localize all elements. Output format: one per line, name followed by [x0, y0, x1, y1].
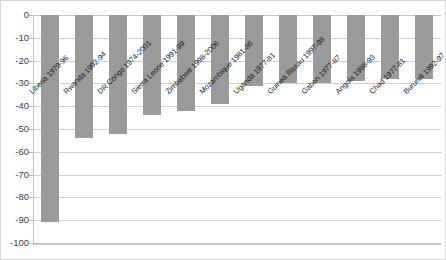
y-axis-tick-label: -30	[3, 78, 29, 88]
y-axis-tick-mark	[29, 61, 33, 62]
y-axis-tick-label: -60	[3, 147, 29, 157]
gridline	[33, 15, 441, 16]
y-axis-tick-label: -10	[3, 33, 29, 43]
y-axis-tick-label: -70	[3, 170, 29, 180]
y-axis-tick-mark	[29, 243, 33, 244]
y-axis-tick-label: -100	[3, 238, 29, 248]
gridline	[33, 106, 441, 107]
y-axis-tick-mark	[29, 83, 33, 84]
y-axis-tick-label: -40	[3, 101, 29, 111]
y-axis-tick-label: -50	[3, 124, 29, 134]
y-axis-tick-mark	[29, 220, 33, 221]
x-axis-baseline	[33, 244, 441, 245]
y-axis-tick-mark	[29, 175, 33, 176]
gridline	[33, 175, 441, 176]
gridline	[33, 152, 441, 153]
gridline	[33, 197, 441, 198]
y-axis-tick-mark	[29, 129, 33, 130]
plot-area: Liberia 1979-96Rwanda 1992-94DR Congo 19…	[33, 15, 441, 243]
gridline	[33, 220, 441, 221]
y-axis-tick-mark	[29, 15, 33, 16]
y-axis-tick-mark	[29, 152, 33, 153]
y-axis-tick-mark	[29, 38, 33, 39]
bar-chart: 0-10-20-30-40-50-60-70-80-90-100 Liberia…	[0, 0, 446, 260]
bar	[41, 15, 59, 222]
y-axis-tick-label: 0	[3, 10, 29, 20]
gridline	[33, 38, 441, 39]
y-axis-tick-label: -90	[3, 215, 29, 225]
y-axis-tick-label: -20	[3, 56, 29, 66]
gridline	[33, 129, 441, 130]
y-axis-tick-label: -80	[3, 192, 29, 202]
y-axis-labels: 0-10-20-30-40-50-60-70-80-90-100	[1, 1, 29, 260]
y-axis-tick-mark	[29, 106, 33, 107]
y-axis-tick-mark	[29, 197, 33, 198]
